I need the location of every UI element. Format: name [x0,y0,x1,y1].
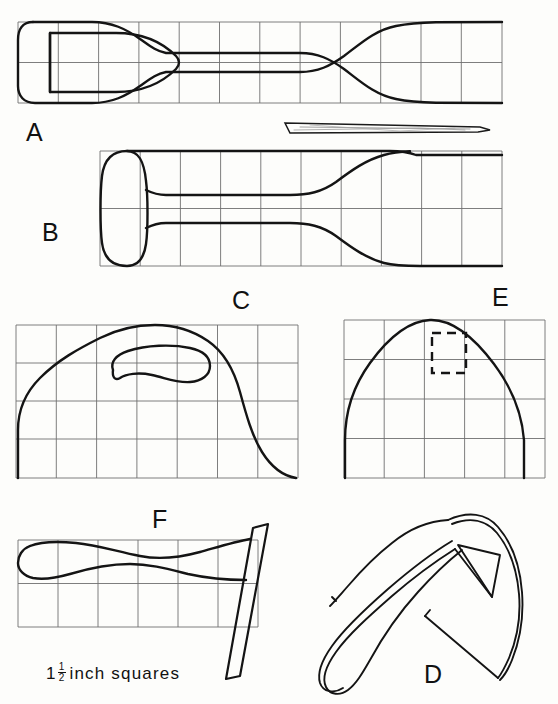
scale-fraction-numerator: 1 [58,662,67,673]
figure-label-b: B [42,218,60,247]
plate-background [0,0,558,704]
figure-label-f: F [152,505,168,534]
scale-unit-text: inch squares [69,664,180,683]
scale-fraction: 12 [58,662,67,682]
figure-label-e: E [492,283,510,312]
figure-label-c: C [232,286,251,315]
figure-label-d: D [424,660,443,689]
scale-whole-number: 1 [46,664,57,683]
figure-label-a: A [26,118,44,147]
pattern-plate [0,0,558,704]
scale-fraction-denominator: 2 [58,673,67,683]
scale-caption: 112inch squares [46,662,180,684]
